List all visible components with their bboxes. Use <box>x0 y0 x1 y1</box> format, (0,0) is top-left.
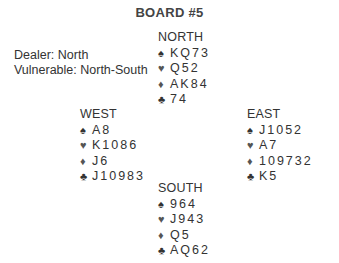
south-spades-row: ♠964 <box>158 197 210 213</box>
south-diamonds-row: ♦Q5 <box>158 228 210 244</box>
north-hearts-row: ♥Q52 <box>158 61 210 77</box>
north-spades: KQ73 <box>170 46 210 60</box>
seat-label-west: WEST <box>80 107 145 123</box>
heart-icon: ♥ <box>247 138 259 154</box>
east-spades-row: ♠J1052 <box>247 123 313 139</box>
diamond-icon: ♦ <box>158 228 170 244</box>
east-clubs: K5 <box>259 169 278 183</box>
diamond-icon: ♦ <box>247 154 259 170</box>
spade-icon: ♠ <box>158 46 170 62</box>
west-diamonds-row: ♦J6 <box>80 154 145 170</box>
board-title: BOARD #5 <box>0 5 339 20</box>
north-diamonds: AK84 <box>170 77 209 91</box>
east-hearts: A7 <box>259 138 278 152</box>
west-spades: A8 <box>92 123 111 137</box>
diamond-icon: ♦ <box>80 154 92 170</box>
spade-icon: ♠ <box>80 123 92 139</box>
west-clubs: J10983 <box>92 169 145 183</box>
west-diamonds: J6 <box>92 154 109 168</box>
heart-icon: ♥ <box>158 61 170 77</box>
club-icon: ♣ <box>247 169 259 185</box>
hand-east: EAST ♠J1052 ♥A7 ♦109732 ♣K5 <box>247 107 313 185</box>
hand-west: WEST ♠A8 ♥K1086 ♦J6 ♣J10983 <box>80 107 145 185</box>
hand-south: SOUTH ♠964 ♥J943 ♦Q5 ♣AQ62 <box>158 181 210 259</box>
south-hearts-row: ♥J943 <box>158 212 210 228</box>
spade-icon: ♠ <box>158 197 170 213</box>
south-diamonds: Q5 <box>170 228 191 242</box>
west-spades-row: ♠A8 <box>80 123 145 139</box>
north-clubs: 74 <box>170 92 188 106</box>
heart-icon: ♥ <box>158 212 170 228</box>
south-clubs-row: ♣AQ62 <box>158 243 210 259</box>
west-hearts-row: ♥K1086 <box>80 138 145 154</box>
seat-label-north: NORTH <box>158 30 210 46</box>
east-diamonds-row: ♦109732 <box>247 154 313 170</box>
spade-icon: ♠ <box>247 123 259 139</box>
north-hearts: Q52 <box>170 61 200 75</box>
seat-label-east: EAST <box>247 107 313 123</box>
club-icon: ♣ <box>158 92 170 108</box>
club-icon: ♣ <box>158 243 170 259</box>
east-spades: J1052 <box>259 123 303 137</box>
east-clubs-row: ♣K5 <box>247 169 313 185</box>
east-hearts-row: ♥A7 <box>247 138 313 154</box>
south-hearts: J943 <box>170 212 205 226</box>
east-diamonds: 109732 <box>259 154 313 168</box>
north-diamonds-row: ♦AK84 <box>158 77 210 93</box>
seat-label-south: SOUTH <box>158 181 210 197</box>
vulnerable-label: Vulnerable: North-South <box>14 63 148 78</box>
diamond-icon: ♦ <box>158 77 170 93</box>
dealer-label: Dealer: North <box>14 48 148 63</box>
west-clubs-row: ♣J10983 <box>80 169 145 185</box>
south-spades: 964 <box>170 197 197 211</box>
north-clubs-row: ♣74 <box>158 92 210 108</box>
south-clubs: AQ62 <box>170 243 210 257</box>
board-info: Dealer: North Vulnerable: North-South <box>14 48 148 78</box>
club-icon: ♣ <box>80 169 92 185</box>
heart-icon: ♥ <box>80 138 92 154</box>
hand-north: NORTH ♠KQ73 ♥Q52 ♦AK84 ♣74 <box>158 30 210 108</box>
west-hearts: K1086 <box>92 138 138 152</box>
north-spades-row: ♠KQ73 <box>158 46 210 62</box>
